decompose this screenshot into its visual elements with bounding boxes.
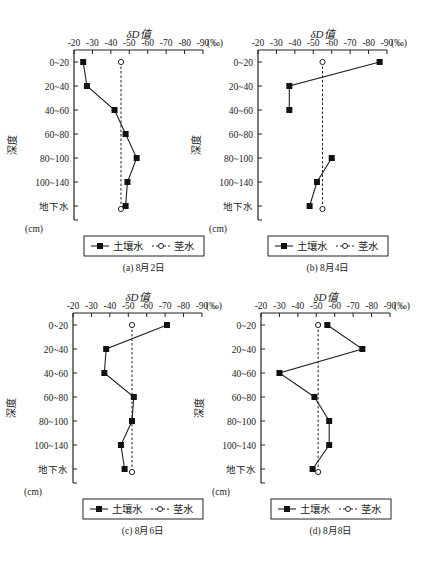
- figure-canvas: δD值-20-30-40-50-60-70-80-90(‰)0~2020~404…: [0, 0, 444, 562]
- y-axis-unit: (cm): [25, 224, 43, 235]
- soil-water-point: [131, 394, 137, 400]
- soil-water-point: [326, 418, 332, 424]
- x-tick-label: -30: [270, 38, 283, 48]
- soil-water-point: [286, 83, 292, 89]
- y-axis-title: 深度: [6, 135, 18, 155]
- soil-water-point: [311, 394, 317, 400]
- x-tick-label: -30: [85, 301, 98, 311]
- y-tick-label: 0~20: [234, 58, 254, 68]
- legend-stem-label: 茎水: [173, 504, 194, 515]
- stem-water-point: [118, 59, 123, 64]
- y-tick-label: 100~140: [219, 178, 253, 188]
- soil-water-line: [289, 62, 379, 110]
- y-tick-label: 40~60: [44, 369, 68, 379]
- panel-caption: (c) 8月6日: [122, 526, 164, 537]
- soil-water-point: [122, 466, 128, 472]
- y-tick-label: 20~40: [232, 345, 256, 355]
- soil-water-point: [314, 179, 320, 185]
- x-tick-label: -50: [122, 301, 135, 311]
- stem-water-point: [320, 206, 325, 211]
- y-tick-label: 地下水: [39, 201, 69, 212]
- x-tick-label: -80: [362, 38, 375, 48]
- x-tick-label: -50: [310, 301, 323, 311]
- soil-water-point: [134, 155, 140, 161]
- panel-caption: (b) 8月4日: [307, 263, 350, 274]
- x-tick-label: -80: [365, 301, 378, 311]
- stem-water-point: [320, 59, 325, 64]
- y-tick-label: 60~80: [45, 130, 69, 140]
- soil-water-point: [377, 59, 383, 65]
- x-axis-unit: (‰): [391, 38, 407, 49]
- soil-water-point: [276, 370, 282, 376]
- soil-water-point: [80, 59, 86, 65]
- y-tick-label: 地下水: [226, 464, 256, 475]
- x-tick-label: -60: [325, 38, 338, 48]
- y-tick-label: 0~20: [50, 58, 70, 68]
- y-tick-label: 60~80: [232, 393, 256, 403]
- x-tick-label: -60: [141, 38, 154, 48]
- y-tick-label: 100~140: [222, 441, 256, 451]
- soil-water-point: [103, 346, 109, 352]
- soil-water-point: [359, 346, 365, 352]
- legend-stem-label: 茎水: [361, 504, 382, 515]
- y-tick-label: 80~100: [40, 154, 69, 164]
- x-tick-label: -20: [255, 301, 268, 311]
- x-axis-unit: (‰): [394, 301, 410, 312]
- stem-water-point: [129, 322, 134, 327]
- y-tick-label: 0~20: [49, 321, 69, 331]
- x-axis-unit: (‰): [206, 301, 222, 312]
- legend-soil-label: 土壤水: [300, 503, 331, 515]
- legend: 土壤水茎水: [84, 236, 204, 256]
- panel-caption: (d) 8月8日: [310, 526, 353, 537]
- soil-water-point: [310, 466, 316, 472]
- legend-stem-marker-icon: [343, 244, 348, 249]
- x-tick-label: -50: [307, 38, 320, 48]
- x-tick-label: -80: [177, 301, 190, 311]
- x-tick-label: -70: [159, 301, 172, 311]
- legend-stem-marker-icon: [159, 244, 164, 249]
- y-axis-title: 深度: [5, 398, 17, 418]
- legend: 土壤水茎水: [83, 499, 203, 519]
- panel-caption: (a) 8月2日: [123, 263, 165, 274]
- soil-water-point: [129, 418, 135, 424]
- stem-water-point: [129, 469, 134, 474]
- x-tick-label: -70: [347, 301, 360, 311]
- legend-stem-marker-icon: [346, 507, 351, 512]
- y-tick-label: 20~40: [229, 82, 253, 92]
- legend-stem-label: 茎水: [358, 241, 379, 252]
- y-axis-unit: (cm): [212, 487, 230, 498]
- legend-soil-label: 土壤水: [113, 240, 144, 252]
- soil-water-point: [112, 107, 118, 113]
- panel-d: δD值-20-30-40-50-60-70-80-90(‰)0~2020~404…: [193, 291, 410, 537]
- soil-water-point: [124, 179, 130, 185]
- soil-water-point: [324, 322, 330, 328]
- x-axis-unit: (‰): [207, 38, 223, 49]
- soil-water-point: [164, 322, 170, 328]
- x-tick-label: -70: [160, 38, 173, 48]
- x-tick-label: -20: [68, 38, 81, 48]
- y-axis-title: 深度: [190, 135, 202, 155]
- y-tick-label: 60~80: [44, 393, 68, 403]
- x-tick-label: -60: [328, 301, 341, 311]
- soil-water-point: [329, 155, 335, 161]
- x-tick-label: -20: [252, 38, 265, 48]
- y-tick-label: 地下水: [223, 201, 253, 212]
- y-tick-label: 地下水: [38, 464, 68, 475]
- panel-b: δD值-20-30-40-50-60-70-80-90(‰)0~2020~404…: [190, 28, 407, 274]
- y-tick-label: 40~60: [45, 106, 69, 116]
- soil-water-point: [101, 370, 107, 376]
- y-tick-label: 80~100: [227, 417, 256, 427]
- y-axis-unit: (cm): [209, 224, 227, 235]
- stem-water-point: [316, 322, 321, 327]
- x-tick-label: -50: [123, 38, 136, 48]
- x-tick-label: -70: [344, 38, 357, 48]
- legend-soil-label: 土壤水: [297, 240, 328, 252]
- legend-stem-marker-icon: [158, 507, 163, 512]
- x-tick-label: -20: [67, 301, 80, 311]
- x-tick-label: -40: [105, 38, 118, 48]
- x-tick-label: -30: [86, 38, 99, 48]
- x-tick-label: -40: [292, 301, 305, 311]
- y-tick-label: 80~100: [224, 154, 253, 164]
- legend-soil-label: 土壤水: [112, 503, 143, 515]
- y-tick-label: 40~60: [232, 369, 256, 379]
